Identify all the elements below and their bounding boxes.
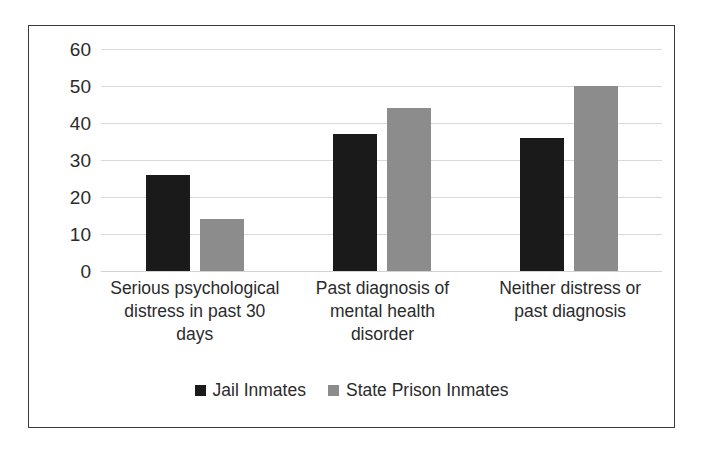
category-label: Serious psychologicaldistress in past 30…	[101, 277, 289, 357]
bars-layer	[29, 26, 676, 429]
legend-swatch-icon	[328, 385, 339, 396]
bar	[200, 219, 244, 271]
category-label-line: Serious psychological	[103, 277, 287, 300]
category-label-line: days	[103, 323, 287, 346]
bar	[387, 108, 431, 271]
plot-area: 6050403020100	[29, 26, 676, 429]
category-label-line: Neither distress or	[478, 277, 662, 300]
legend-label: Jail Inmates	[213, 382, 306, 400]
chart-legend: Jail InmatesState Prison Inmates	[29, 382, 674, 400]
category-label: Neither distress orpast diagnosis	[476, 277, 664, 357]
category-label-line: past diagnosis	[478, 300, 662, 323]
category-label: Past diagnosis ofmental healthdisorder	[289, 277, 477, 357]
category-label-line: mental health	[291, 300, 475, 323]
category-label-line: Past diagnosis of	[291, 277, 475, 300]
legend-swatch-icon	[195, 385, 206, 396]
legend-label: State Prison Inmates	[346, 382, 508, 400]
category-label-line: distress in past 30	[103, 300, 287, 323]
chart-container: 6050403020100 Serious psychologicaldistr…	[28, 25, 675, 428]
category-label-line: disorder	[291, 323, 475, 346]
bar	[574, 86, 618, 271]
legend-item[interactable]: Jail Inmates	[195, 382, 306, 400]
category-axis-labels: Serious psychologicaldistress in past 30…	[101, 277, 664, 357]
bar	[333, 134, 377, 271]
legend-item[interactable]: State Prison Inmates	[328, 382, 508, 400]
bar	[520, 138, 564, 271]
bar	[146, 175, 190, 271]
